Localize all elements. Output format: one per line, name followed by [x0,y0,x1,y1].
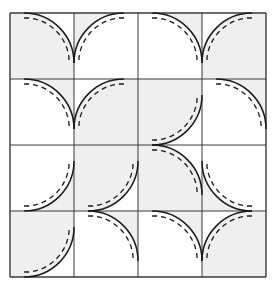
patch-r2c0-fill [24,161,74,211]
patch-r2c2-fill [138,145,202,211]
patch-r1c2-fill [138,79,202,145]
patch-r0c1-fill [74,13,124,63]
patch-r3c1-fill [88,211,138,261]
quilt-block-svg [0,0,276,286]
patch-r1c1-fill [74,79,138,145]
patch-r3c3-fill [202,211,266,277]
patch-r3c2-fill [152,211,202,261]
patch-r1c3-fill [216,79,266,129]
patch-r0c2-fill [152,13,202,63]
patch-r3c0-fill [10,211,74,277]
patch-r2c1-fill [74,145,138,211]
patch-r2c3-fill [202,161,252,211]
patch-r0c3-fill [202,13,266,79]
patch-r1c0-fill [24,79,74,129]
patch-r0c0-fill [10,13,74,79]
quilt-block-diagram [0,0,276,286]
